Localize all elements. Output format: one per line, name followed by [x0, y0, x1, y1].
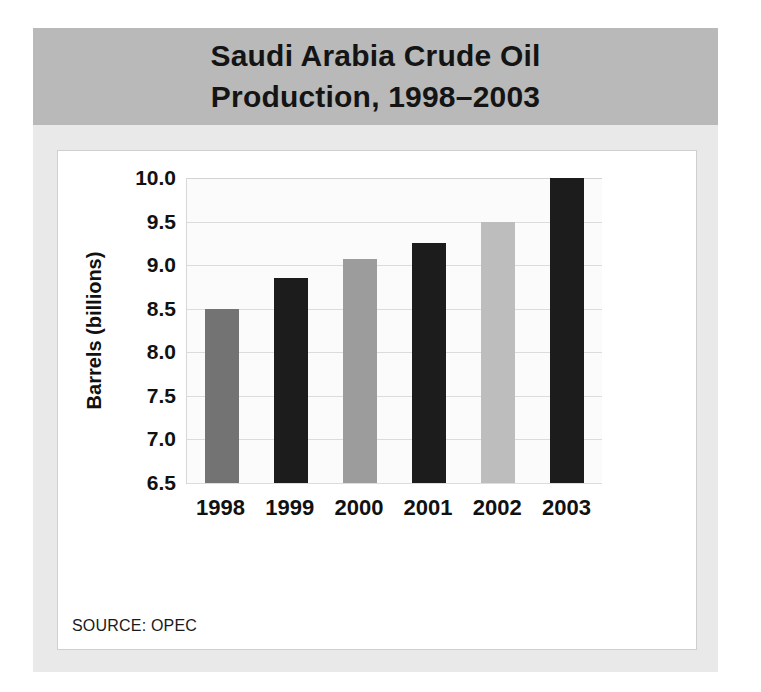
y-axis-tick-label: 9.5 [147, 210, 186, 234]
x-axis-tick-label: 2000 [334, 495, 383, 521]
x-axis-tick-label: 2003 [542, 495, 591, 521]
bar-2001 [412, 243, 446, 483]
bar-2002 [481, 222, 515, 483]
x-axis-tick-label: 2002 [473, 495, 522, 521]
x-axis-tick-label: 1999 [265, 495, 314, 521]
bar-1998 [205, 309, 239, 483]
page-title-line-2: Production, 1998–2003 [211, 77, 540, 118]
y-axis-tick-label: 8.5 [147, 297, 186, 321]
y-axis-tick-label: 8.0 [147, 340, 186, 364]
y-axis-tick-label: 7.5 [147, 384, 186, 408]
bar-2000 [343, 259, 377, 483]
bar-1999 [274, 278, 308, 483]
gridline [187, 483, 602, 484]
x-axis-tick-label: 1998 [196, 495, 245, 521]
figure-panel: Saudi Arabia Crude Oil Production, 1998–… [33, 28, 718, 672]
chart-plot-wrapper: Barrels (billions) 6.57.07.58.08.59.09.5… [58, 151, 696, 571]
page-title-line-1: Saudi Arabia Crude Oil [210, 36, 540, 77]
bar-2003 [550, 178, 584, 483]
y-axis-tick-label: 7.0 [147, 427, 186, 451]
title-banner: Saudi Arabia Crude Oil Production, 1998–… [33, 28, 718, 125]
y-axis-tick-label: 6.5 [147, 471, 186, 495]
chart-card: Barrels (billions) 6.57.07.58.08.59.09.5… [57, 150, 697, 650]
x-axis-tick-label: 2001 [404, 495, 453, 521]
plot-area [186, 178, 602, 484]
y-axis-tick-label: 9.0 [147, 253, 186, 277]
y-axis-title: Barrels (billions) [83, 231, 106, 431]
y-axis-tick-label: 10.0 [135, 166, 186, 190]
bars-group [187, 178, 602, 483]
source-note: SOURCE: OPEC [72, 617, 197, 635]
